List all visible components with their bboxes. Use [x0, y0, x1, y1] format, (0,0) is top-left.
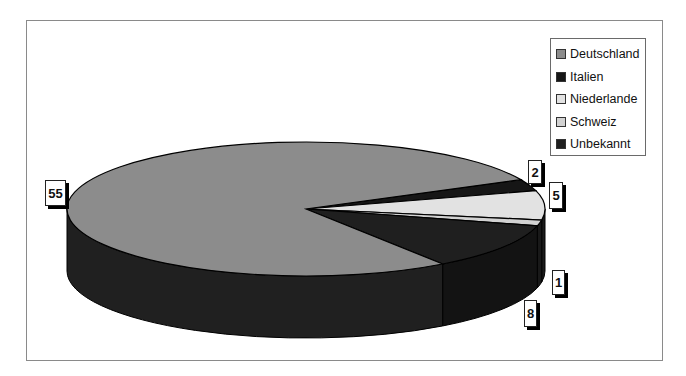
legend-item-niederlande: Niederlande — [556, 88, 645, 111]
data-label-unbekannt: 8 — [524, 300, 537, 327]
swatch-icon — [556, 139, 566, 149]
pie-side-schweiz — [537, 220, 541, 288]
data-label-schweiz: 1 — [552, 270, 565, 295]
swatch-icon — [556, 94, 566, 104]
legend-label: Deutschland — [570, 47, 640, 61]
legend-label: Schweiz — [570, 115, 617, 129]
legend-label: Niederlande — [570, 92, 637, 106]
swatch-icon — [556, 49, 566, 59]
legend-item-deutschland: Deutschland — [556, 43, 645, 66]
data-label-niederlande: 5 — [549, 182, 563, 209]
swatch-icon — [556, 72, 566, 82]
legend-label: Unbekannt — [570, 137, 630, 151]
legend-item-italien: Italien — [556, 66, 645, 89]
swatch-icon — [556, 117, 566, 127]
legend-item-schweiz: Schweiz — [556, 111, 645, 134]
legend-item-unbekannt: Unbekannt — [556, 133, 645, 156]
data-label-italien: 2 — [528, 160, 542, 184]
legend: Deutschland Italien Niederlande Schweiz … — [550, 38, 646, 156]
legend-label: Italien — [570, 70, 603, 84]
data-label-deutschland: 55 — [45, 180, 66, 206]
